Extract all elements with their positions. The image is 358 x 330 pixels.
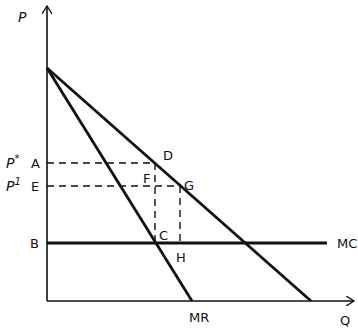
mc-label: MC <box>337 236 357 251</box>
point-a-label: A <box>31 156 40 171</box>
mr-label: MR <box>189 310 209 325</box>
point-c-label: C <box>159 228 168 243</box>
y-axis-label: P <box>18 9 27 25</box>
p-star-label: P* <box>6 153 19 171</box>
point-g-label: G <box>184 178 194 193</box>
point-e-label: E <box>31 179 39 194</box>
point-f-label: F <box>143 171 150 186</box>
point-d-label: D <box>163 148 173 163</box>
p-one-label: P1 <box>6 176 21 194</box>
monopoly-diagram: P Q P* P1 A E B D F G C H MC MR <box>0 0 358 330</box>
point-b-label: B <box>30 236 39 251</box>
mr-curve <box>47 68 192 301</box>
demand-curve <box>47 68 311 301</box>
x-axis-label: Q <box>340 313 350 328</box>
point-h-label: H <box>176 250 186 265</box>
